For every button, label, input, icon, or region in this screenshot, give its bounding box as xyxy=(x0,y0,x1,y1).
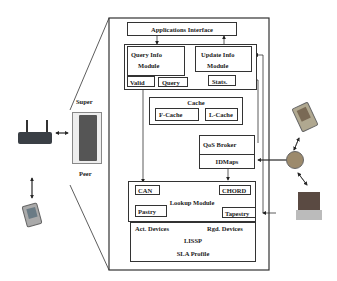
super-label: Super xyxy=(76,98,93,105)
idmaps: IDMaps xyxy=(199,154,255,169)
globe-hub-icon xyxy=(286,151,304,169)
wireless-router-icon xyxy=(16,120,54,146)
applications-interface: Applications Interface xyxy=(127,22,237,36)
laptop-icon xyxy=(296,192,322,220)
query-box: Query xyxy=(158,77,188,87)
qos-broker: QoS Broker xyxy=(199,135,255,155)
can-box: CAN xyxy=(135,185,160,195)
f-cache-box: F-Cache xyxy=(155,108,199,121)
tapestry-box: Tapestry xyxy=(222,207,256,218)
lissp-module: Act. Devices Rgd. Devices LISSP SLA Prof… xyxy=(130,222,256,262)
query-info-module: Query Info Module xyxy=(127,46,185,76)
valid-box: Valid xyxy=(127,76,155,87)
chord-box: CHORD xyxy=(219,185,251,195)
stats-box: Stats. xyxy=(208,75,236,86)
l-cache-box: L-Cache xyxy=(205,108,238,121)
peer-label: Peer xyxy=(79,170,92,177)
pastry-box: Pastry xyxy=(135,205,167,217)
update-info-module: Update Info Module xyxy=(195,46,252,72)
server-tower-icon xyxy=(72,112,102,164)
